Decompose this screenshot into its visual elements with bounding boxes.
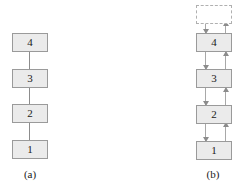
panel-a: 4 3 2 1 (a): [0, 0, 122, 189]
arrow-b-2-to-3: [225, 88, 226, 105]
node-a-1[interactable]: 1: [12, 140, 48, 159]
node-a-3[interactable]: 3: [12, 69, 48, 88]
arrow-b-4-to-3: [205, 52, 206, 69]
node-a-3-label: 3: [27, 73, 33, 84]
node-b-1[interactable]: 1: [196, 141, 232, 160]
arrow-b-3-to-4: [225, 52, 226, 69]
node-b-empty[interactable]: [196, 5, 232, 24]
arrow-b-1-to-2: [225, 123, 226, 141]
panel-b-caption: (b): [185, 168, 241, 180]
arrow-b-2-to-1: [205, 123, 206, 141]
figure-canvas: 4 3 2 1 (a) 4 3: [0, 0, 245, 189]
panel-a-caption: (a): [0, 168, 60, 180]
node-a-2[interactable]: 2: [12, 104, 48, 123]
node-b-4[interactable]: 4: [196, 33, 232, 52]
node-b-1-label: 1: [211, 145, 217, 156]
arrow-b-3-to-2: [205, 88, 206, 105]
node-b-2-label: 2: [211, 109, 217, 120]
node-b-3-label: 3: [211, 73, 217, 84]
node-b-2[interactable]: 2: [196, 105, 232, 124]
connector-a-4-3: [29, 52, 30, 69]
connector-a-2-1: [29, 123, 30, 140]
node-a-1-label: 1: [27, 144, 33, 155]
node-b-4-label: 4: [211, 37, 217, 48]
node-a-4-label: 4: [27, 37, 33, 48]
panel-b: 4 3 2 1 (b): [122, 0, 245, 189]
node-b-3[interactable]: 3: [196, 69, 232, 88]
node-a-4[interactable]: 4: [12, 33, 48, 52]
connector-a-3-2: [29, 88, 30, 105]
node-a-2-label: 2: [27, 108, 33, 119]
